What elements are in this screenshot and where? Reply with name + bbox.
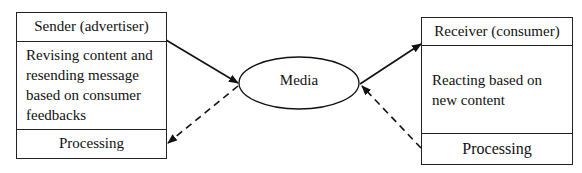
arrow-media-to-sender xyxy=(168,86,238,143)
arrow-sender-to-media xyxy=(166,40,238,83)
receiver-title: Receiver (consumer) xyxy=(422,18,572,46)
receiver-processing: Processing xyxy=(422,133,572,164)
arrow-receiver-to-media xyxy=(362,86,421,148)
receiver-box: Receiver (consumer) Reacting based on ne… xyxy=(421,17,573,165)
media-label: Media xyxy=(259,72,339,89)
receiver-body: Reacting based on new content xyxy=(422,70,572,110)
sender-body-line: resending message xyxy=(26,65,166,85)
sender-body: Revising content and resending message b… xyxy=(17,45,166,125)
receiver-body-line: new content xyxy=(432,90,572,110)
receiver-body-line: Reacting based on xyxy=(432,70,572,90)
sender-body-line: Revising content and xyxy=(26,45,166,65)
arrow-media-to-receiver xyxy=(360,44,421,84)
sender-box: Sender (advertiser) Revising content and… xyxy=(16,12,167,159)
sender-title: Sender (advertiser) xyxy=(17,13,166,42)
sender-processing: Processing xyxy=(17,129,166,158)
sender-body-line: based on consumer xyxy=(26,85,166,105)
sender-body-line: feedbacks xyxy=(26,105,166,125)
